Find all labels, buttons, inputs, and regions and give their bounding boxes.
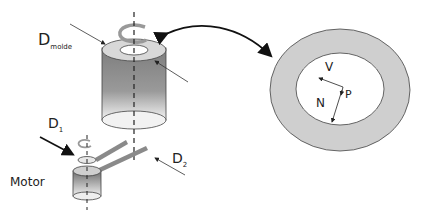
label-d-molde: Dmolde (38, 30, 72, 49)
label-v: V (325, 60, 333, 74)
label-n: N (316, 96, 325, 110)
motor-rotation-icon (79, 140, 91, 147)
label-d2: D2 (172, 150, 187, 166)
label-d1: D1 (48, 115, 63, 131)
correspondence-arrow (166, 26, 270, 55)
cross-section-ring (270, 29, 410, 151)
d-molde-pointer (70, 24, 105, 44)
d1-pointer (40, 137, 72, 154)
label-motor: Motor (10, 175, 45, 189)
label-p: P (345, 88, 352, 101)
